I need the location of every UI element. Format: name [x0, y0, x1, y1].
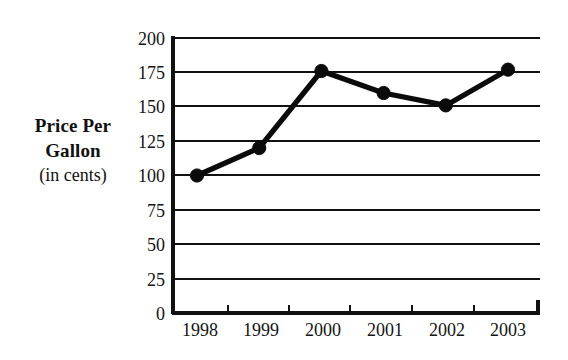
y-tick-label-50: 50	[147, 235, 165, 255]
data-point-1998	[190, 169, 203, 182]
y-tick-label-150: 150	[138, 97, 165, 117]
gridlines	[172, 38, 540, 279]
x-tick-labels: 1998 1999 2000 2001 2002 2003	[182, 320, 526, 340]
data-point-2003	[501, 63, 514, 76]
y-tick-label-0: 0	[156, 304, 165, 324]
line-chart-figure: Price Per Gallon (in cents)	[0, 0, 568, 360]
data-series-price-per-gallon	[190, 63, 514, 182]
data-point-2001	[377, 86, 390, 99]
x-tick-label-2001: 2001	[367, 320, 403, 340]
x-tick-label-1999: 1999	[243, 320, 279, 340]
x-tick-label-2003: 2003	[490, 320, 526, 340]
y-tick-label-200: 200	[138, 29, 165, 49]
x-tick-label-2002: 2002	[429, 320, 465, 340]
y-tick-label-75: 75	[147, 201, 165, 221]
x-tick-label-1998: 1998	[182, 320, 218, 340]
y-tick-label-100: 100	[138, 166, 165, 186]
plot-area: 200 175 150 125 100 75 50 25 0 1998 1999…	[0, 0, 568, 360]
y-tick-label-125: 125	[138, 132, 165, 152]
x-tick-label-2000: 2000	[305, 320, 341, 340]
data-point-1999	[253, 141, 266, 154]
data-point-2002	[439, 99, 452, 112]
y-tick-labels: 200 175 150 125 100 75 50 25 0	[138, 29, 165, 324]
data-line	[197, 70, 508, 176]
y-tick-label-25: 25	[147, 270, 165, 290]
data-point-2000	[315, 64, 328, 77]
y-tick-label-175: 175	[138, 63, 165, 83]
